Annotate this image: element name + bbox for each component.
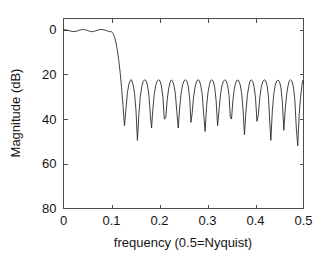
x-tick-label: 0.2 [150,213,168,228]
x-tick-label: 0 [60,213,67,228]
y-tick-label: 0 [49,22,56,37]
figure-panel: 00.10.20.30.40.5 020406080 frequency (0.… [0,0,324,259]
y-tick-label: 40 [42,112,56,127]
x-tick-label: 0.1 [102,213,120,228]
x-tick-label: 0.3 [198,213,216,228]
x-tick-label: 0.5 [294,213,312,228]
y-tick-label: 80 [42,201,56,216]
y-tick-label: 60 [42,156,56,171]
magnitude-response-chart: 00.10.20.30.40.5 020406080 frequency (0.… [0,0,324,259]
x-tick-label: 0.4 [246,213,264,228]
y-axis-title: Magnitude (dB) [8,69,23,158]
x-axis-title: frequency (0.5=Nyquist) [114,235,252,250]
y-tick-label: 20 [42,67,56,82]
